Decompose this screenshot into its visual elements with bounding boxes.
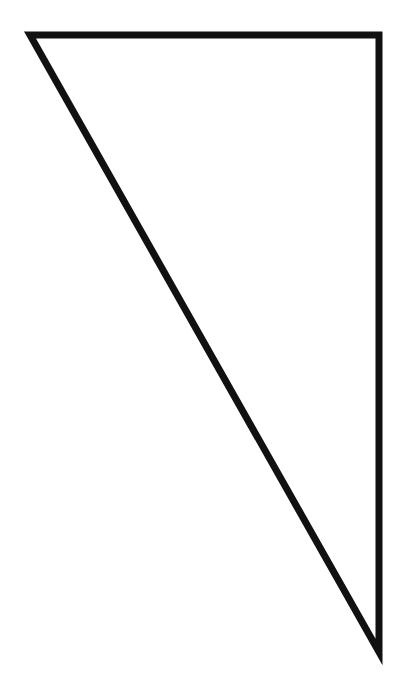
diagram-canvas xyxy=(0,0,407,684)
